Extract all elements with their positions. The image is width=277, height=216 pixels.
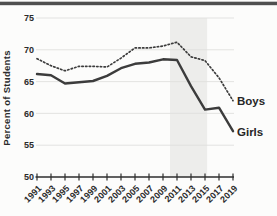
girls-series-label: Girls	[237, 126, 263, 138]
y-tick-label: 75	[24, 13, 34, 23]
y-tick-label: 55	[24, 140, 34, 150]
y-tick-label: 60	[24, 109, 34, 119]
y-axis-title: Percent of Students	[1, 50, 12, 145]
boys-series-label: Boys	[237, 95, 265, 107]
y-tick-label: 65	[24, 77, 34, 87]
chart-frame: Percent of Students 50556065707519911993…	[0, 0, 277, 216]
y-tick-label: 50	[24, 172, 34, 182]
y-tick-label: 70	[24, 45, 34, 55]
line-chart: Percent of Students 50556065707519911993…	[0, 0, 277, 216]
